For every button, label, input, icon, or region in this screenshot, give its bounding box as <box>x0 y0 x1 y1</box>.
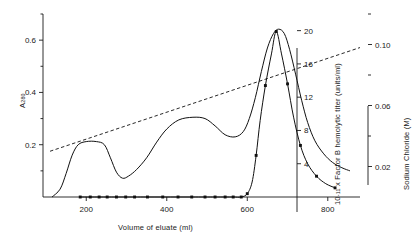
data-point-marker <box>246 192 249 195</box>
svg-text:400: 400 <box>160 205 174 214</box>
data-point-marker <box>89 196 92 199</box>
svg-text:0.10: 0.10 <box>375 41 391 50</box>
x-axis-title: Volume of eluate (ml) <box>118 223 193 232</box>
data-point-marker <box>106 196 109 199</box>
data-point-marker <box>115 196 118 199</box>
y-axis-a280-ticks: 0.20.40.6 <box>25 14 43 171</box>
y-axis-a280-title: A280 <box>18 93 27 108</box>
svg-text:0.2: 0.2 <box>25 141 37 150</box>
data-point-marker <box>299 144 302 147</box>
data-point-marker <box>255 154 258 157</box>
svg-text:800: 800 <box>321 205 335 214</box>
data-point-marker <box>214 196 217 199</box>
y-axis-titer-title-exponent: -11 <box>335 188 341 196</box>
svg-text:8: 8 <box>304 126 309 135</box>
svg-text:200: 200 <box>80 205 94 214</box>
data-point-marker <box>204 196 207 199</box>
chart-canvas: 0.20.40.6 200400600800 48121620 0.020.06… <box>0 0 413 241</box>
data-point-marker <box>79 196 82 199</box>
y-axis-titer-title-rest: x Factor B hemolytic titer (units/ml) <box>333 63 342 186</box>
data-point-marker <box>161 196 164 199</box>
data-point-marker <box>286 82 289 85</box>
data-point-marker <box>264 84 267 87</box>
y-axis-a280-title-main: A <box>18 103 27 108</box>
svg-text:0.06: 0.06 <box>375 102 391 111</box>
y-axis-a280-title-sub: 280 <box>20 93 26 103</box>
y-axis-nacl-ticks: 0.020.060.10 <box>368 14 391 172</box>
series-a280-curve <box>52 29 350 197</box>
data-point-marker <box>275 30 278 33</box>
series-nacl-dashed-line <box>50 48 360 152</box>
data-point-marker <box>190 196 193 199</box>
data-point-marker <box>98 196 101 199</box>
svg-text:0.6: 0.6 <box>25 36 37 45</box>
data-point-marker <box>177 196 180 199</box>
y-axis-nacl-title: Sodium Chloride (M) <box>402 117 411 190</box>
y-axis-titer-ticks: 48121620 <box>297 27 313 169</box>
data-point-marker <box>240 196 243 199</box>
svg-text:600: 600 <box>241 205 255 214</box>
svg-text:12: 12 <box>304 93 313 102</box>
svg-text:0.02: 0.02 <box>375 163 391 172</box>
y-axis-titer-title: 10-11 x Factor B hemolytic titer (units/… <box>333 63 342 205</box>
data-point-marker <box>133 196 136 199</box>
data-group <box>50 29 360 198</box>
data-point-marker <box>146 196 149 199</box>
y-axis-titer-title-prefix: 10 <box>333 196 342 205</box>
data-point-marker <box>232 196 235 199</box>
data-point-marker <box>224 196 227 199</box>
data-point-marker <box>315 175 318 178</box>
data-point-marker <box>124 196 127 199</box>
svg-text:20: 20 <box>304 27 313 36</box>
chromatography-figure: 0.20.40.6 200400600800 48121620 0.020.06… <box>0 0 413 241</box>
